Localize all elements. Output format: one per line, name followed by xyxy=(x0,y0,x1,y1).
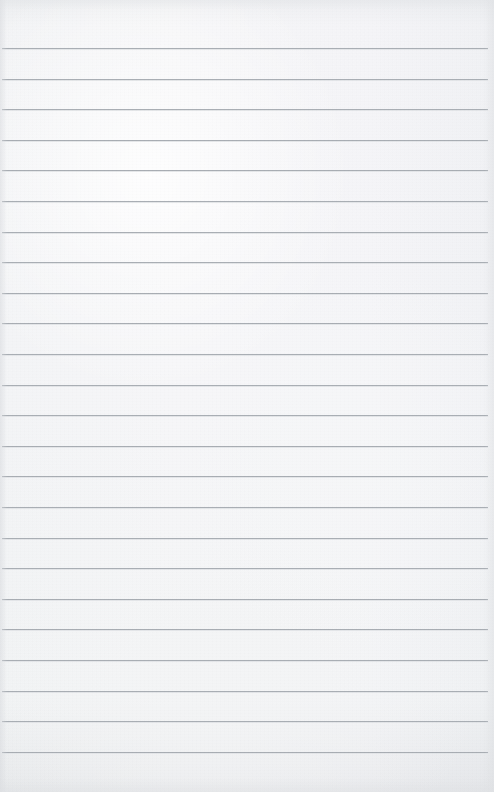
notebook-page xyxy=(0,0,494,792)
writing-area[interactable] xyxy=(2,48,488,752)
